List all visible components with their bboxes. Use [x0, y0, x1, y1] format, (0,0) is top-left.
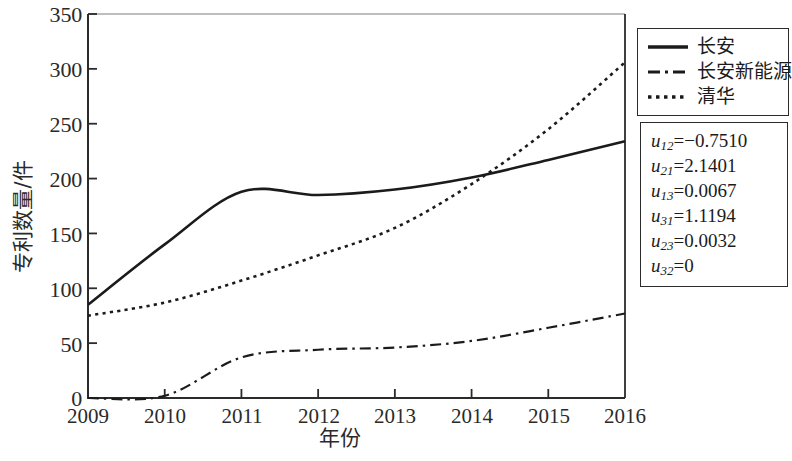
- annotation-symbol: u: [651, 205, 661, 226]
- annotation-row: u13=0.0067: [651, 179, 787, 204]
- legend-swatch-dash-dot: [646, 65, 690, 79]
- annotation-row: u23=0.0032: [651, 229, 787, 254]
- annotation-equals: =: [674, 130, 685, 151]
- annotation-row: u21=2.1401: [651, 154, 787, 179]
- annotation-symbol: u: [651, 230, 661, 251]
- annotation-equals: =: [674, 205, 685, 226]
- legend-item-changan: 长安: [638, 34, 788, 59]
- axis-spines: [88, 14, 625, 398]
- annotation-row: u32=0: [651, 254, 787, 279]
- annotation-value: −0.7510: [684, 130, 747, 151]
- legend-item-tsinghua: 清华: [638, 84, 788, 109]
- series-line-changan-new-energy: [88, 314, 625, 400]
- annotation-symbol: u: [651, 180, 661, 201]
- annotation-row: u12=−0.7510: [651, 129, 787, 154]
- annotation-value: 0: [684, 255, 694, 276]
- series-line-tsinghua: [88, 62, 625, 315]
- coefficient-annotation-box: u12=−0.7510 u21=2.1401 u13=0.0067 u31=1.…: [640, 122, 788, 287]
- annotation-subscript: 31: [661, 213, 674, 228]
- annotation-subscript: 21: [661, 163, 674, 178]
- annotation-value: 2.1401: [684, 155, 736, 176]
- legend-swatch-dotted: [646, 90, 690, 104]
- annotation-equals: =: [674, 230, 685, 251]
- annotation-symbol: u: [651, 255, 661, 276]
- annotation-subscript: 32: [661, 263, 674, 278]
- legend-label-tsinghua: 清华: [690, 87, 735, 106]
- series-line-changan: [88, 141, 625, 304]
- annotation-equals: =: [674, 155, 685, 176]
- annotation-subscript: 12: [661, 138, 674, 153]
- legend: 长安 长安新能源 清华: [637, 28, 789, 116]
- y-tick-marks: [88, 14, 97, 343]
- legend-label-changan: 长安: [690, 37, 735, 56]
- annotation-symbol: u: [651, 155, 661, 176]
- x-tick-marks: [165, 389, 549, 398]
- legend-swatch-solid: [646, 40, 690, 54]
- annotation-subscript: 13: [661, 188, 674, 203]
- legend-item-changan-new-energy: 长安新能源: [638, 59, 788, 84]
- annotation-value: 1.1194: [684, 205, 736, 226]
- annotation-symbol: u: [651, 130, 661, 151]
- annotation-value: 0.0067: [684, 180, 736, 201]
- legend-label-changan-new-energy: 长安新能源: [690, 62, 792, 81]
- annotation-subscript: 23: [661, 238, 674, 253]
- annotation-equals: =: [674, 180, 685, 201]
- annotation-value: 0.0032: [684, 230, 736, 251]
- annotation-row: u31=1.1194: [651, 204, 787, 229]
- annotation-equals: =: [674, 255, 685, 276]
